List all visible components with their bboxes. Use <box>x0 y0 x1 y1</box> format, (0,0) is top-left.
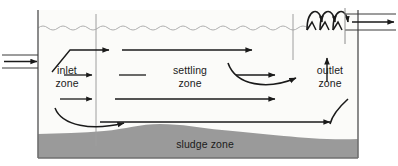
label-inlet-zone: inlet zone <box>40 64 94 89</box>
diagram-canvas: inlet zone settling zone outlet zone slu… <box>0 0 398 166</box>
label-settling-zone: settling zone <box>150 64 230 89</box>
inlet-pipe <box>2 55 38 68</box>
label-outlet-zone: outlet zone <box>303 64 357 89</box>
label-sludge-zone: sludge zone <box>150 138 260 151</box>
